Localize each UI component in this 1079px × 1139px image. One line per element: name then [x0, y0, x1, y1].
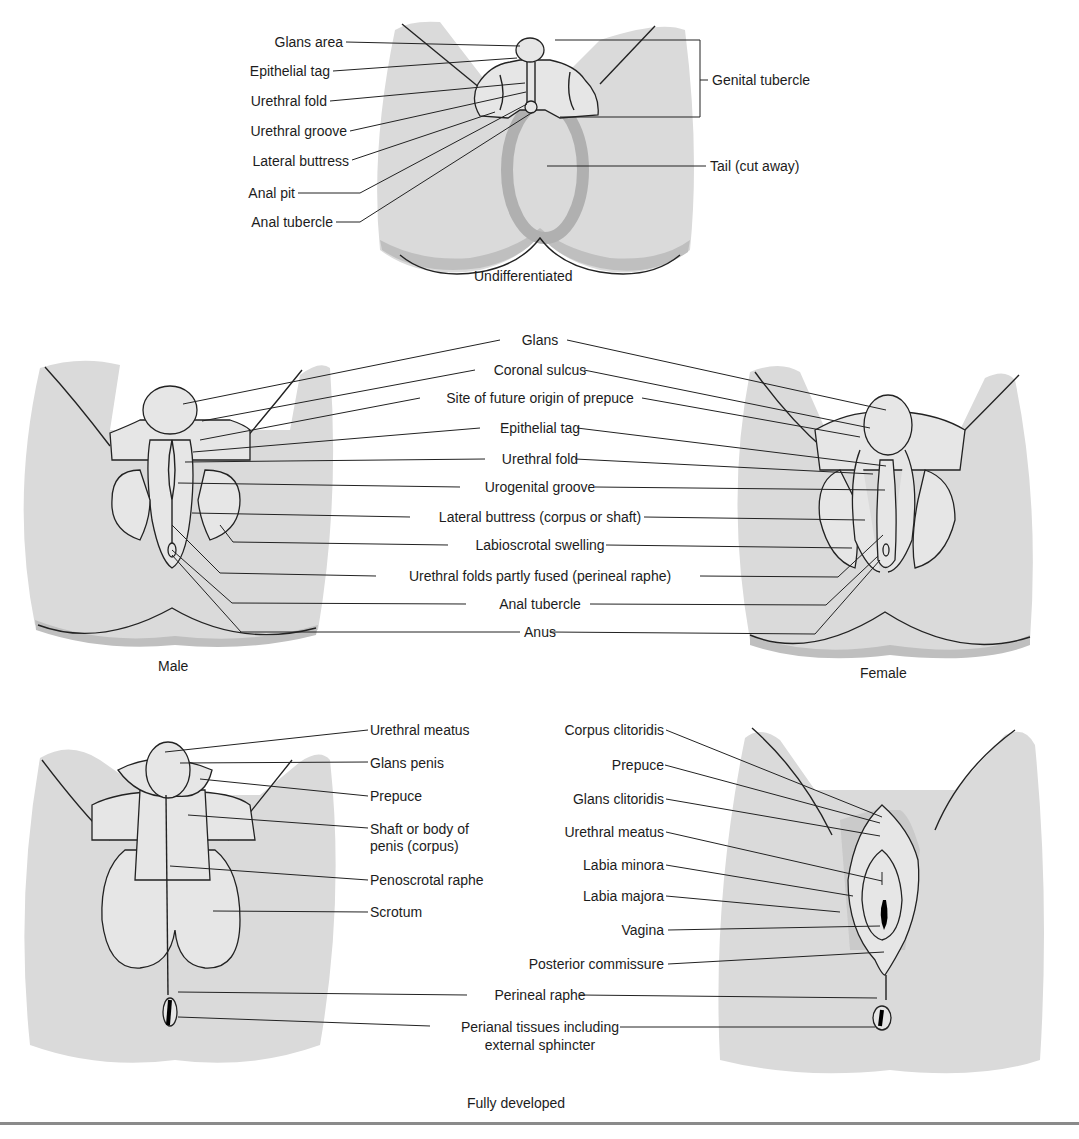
bottom-divider — [0, 1122, 1079, 1125]
label-coronal-sulcus: Coronal sulcus — [380, 362, 700, 378]
label-glans-area: Glans area — [275, 34, 343, 50]
label-lateral-buttress-corpus: Lateral buttress (corpus or shaft) — [340, 509, 740, 525]
label-perineal-raphe: Perineal raphe — [430, 987, 650, 1003]
label-labia-majora: Labia majora — [583, 888, 664, 904]
label-anal-pit: Anal pit — [248, 185, 295, 201]
label-shaft-body-penis-line2: penis (corpus) — [370, 838, 459, 854]
caption-undifferentiated: Undifferentiated — [474, 268, 573, 284]
label-site-future-prepuce: Site of future origin of prepuce — [380, 390, 700, 406]
label-vagina: Vagina — [621, 922, 664, 938]
label-glans-clitoridis: Glans clitoridis — [573, 791, 664, 807]
label-labia-minora: Labia minora — [583, 857, 664, 873]
male-developed-figure — [24, 742, 335, 1063]
label-tail-cut-away: Tail (cut away) — [710, 158, 799, 174]
male-intermediate-figure — [24, 361, 333, 647]
label-epithelial-tag-intermediate: Epithelial tag — [380, 420, 700, 436]
label-urethral-groove: Urethral groove — [251, 123, 348, 139]
label-penoscrotal-raphe: Penoscrotal raphe — [370, 872, 484, 888]
label-anal-tubercle-intermediate: Anal tubercle — [380, 596, 700, 612]
caption-female: Female — [860, 665, 907, 681]
label-glans-penis: Glans penis — [370, 755, 444, 771]
label-glans: Glans — [380, 332, 700, 348]
label-urethral-meatus-male: Urethral meatus — [370, 722, 470, 738]
label-anus: Anus — [380, 624, 700, 640]
label-genital-tubercle: Genital tubercle — [712, 72, 810, 88]
label-anal-tubercle: Anal tubercle — [251, 214, 333, 230]
label-posterior-commissure: Posterior commissure — [529, 956, 664, 972]
label-scrotum: Scrotum — [370, 904, 422, 920]
female-developed-figure — [718, 728, 1044, 1073]
label-labioscrotal-swelling: Labioscrotal swelling — [380, 537, 700, 553]
label-urethral-meatus-female: Urethral meatus — [564, 824, 664, 840]
label-urethral-fold: Urethral fold — [251, 93, 327, 109]
label-perianal-tissues-line2: external sphincter — [420, 1037, 660, 1053]
label-urethral-fold-intermediate: Urethral fold — [380, 451, 700, 467]
label-shaft-body-penis: Shaft or body of — [370, 821, 469, 837]
label-urogenital-groove: Urogenital groove — [380, 479, 700, 495]
label-urethral-folds-partly-fused: Urethral folds partly fused (perineal ra… — [340, 568, 740, 584]
label-perianal-tissues: Perianal tissues including — [420, 1019, 660, 1035]
caption-male: Male — [158, 658, 188, 674]
label-lateral-buttress: Lateral buttress — [253, 153, 350, 169]
label-epithelial-tag: Epithelial tag — [250, 63, 330, 79]
caption-fully-developed: Fully developed — [467, 1095, 565, 1111]
label-corpus-clitoridis: Corpus clitoridis — [564, 722, 664, 738]
label-prepuce-female: Prepuce — [612, 757, 664, 773]
label-prepuce-male: Prepuce — [370, 788, 422, 804]
undifferentiated-figure — [377, 22, 694, 274]
